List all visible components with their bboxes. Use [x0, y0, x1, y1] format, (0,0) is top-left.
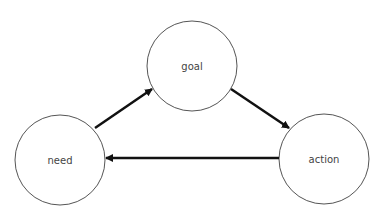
node-need: need — [15, 115, 105, 205]
node-label-action: action — [309, 154, 340, 165]
edge-goal-to-action — [231, 89, 289, 128]
cycle-diagram: goal need action — [0, 0, 387, 216]
node-label-goal: goal — [181, 61, 202, 72]
node-label-need: need — [48, 155, 73, 166]
edge-need-to-goal — [95, 89, 152, 128]
node-goal: goal — [147, 21, 237, 111]
node-action: action — [279, 114, 369, 204]
